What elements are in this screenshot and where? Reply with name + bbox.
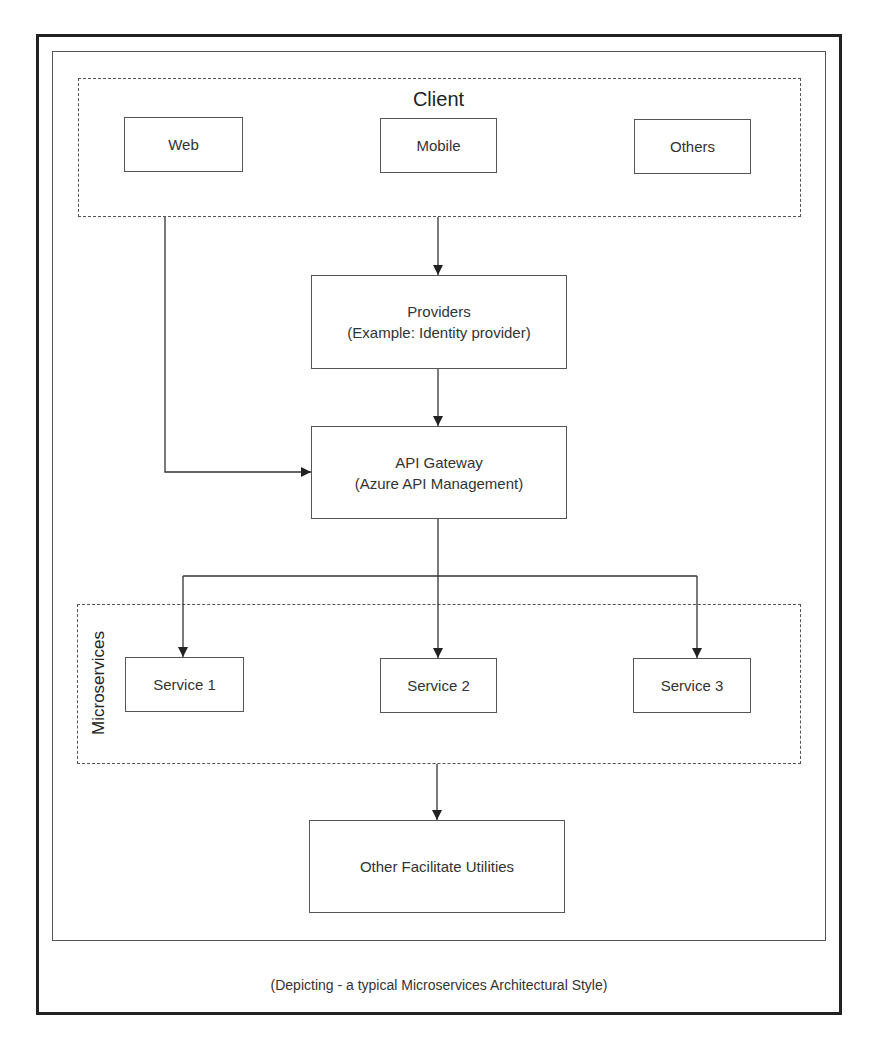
edge-web-gateway [165, 217, 311, 472]
connector-layer [0, 0, 869, 1046]
diagram-caption: (Depicting - a typical Microservices Arc… [52, 977, 826, 993]
